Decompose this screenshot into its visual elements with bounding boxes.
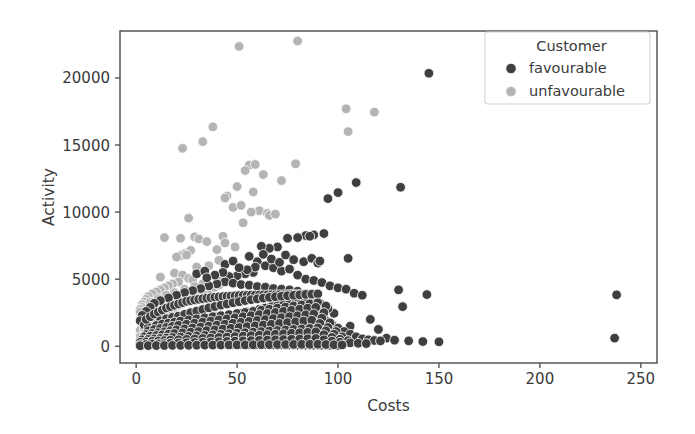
y-tick-label: 15000 — [62, 137, 110, 155]
data-point-favourable — [351, 178, 361, 188]
data-point-unfavourable — [277, 176, 287, 186]
data-point-unfavourable — [246, 207, 256, 217]
chart-canvas: 050100150200250 05000100001500020000 Cos… — [0, 0, 695, 434]
x-tick-label: 250 — [627, 370, 656, 388]
data-point-unfavourable — [370, 107, 380, 117]
data-point-favourable — [612, 290, 622, 300]
data-point-unfavourable — [248, 187, 258, 197]
x-tick-label: 100 — [324, 370, 353, 388]
data-point-favourable — [404, 336, 414, 346]
data-point-unfavourable — [343, 127, 353, 137]
data-point-unfavourable — [250, 160, 260, 170]
data-point-favourable — [390, 335, 400, 345]
data-point-unfavourable — [160, 233, 170, 243]
data-point-favourable — [424, 68, 434, 78]
data-point-unfavourable — [271, 209, 281, 219]
data-point-unfavourable — [291, 159, 301, 169]
data-point-unfavourable — [236, 201, 246, 211]
data-point-favourable — [418, 337, 428, 347]
legend-title: Customer — [536, 38, 606, 54]
y-tick-label: 0 — [100, 338, 110, 356]
data-point-unfavourable — [240, 166, 250, 176]
data-point-unfavourable — [258, 170, 268, 180]
x-tick-label: 0 — [131, 370, 141, 388]
data-point-favourable — [434, 337, 444, 347]
data-point-favourable — [293, 233, 303, 243]
data-point-favourable — [374, 325, 384, 335]
data-point-unfavourable — [176, 233, 186, 243]
x-tick-label: 150 — [425, 370, 454, 388]
data-point-unfavourable — [182, 250, 192, 260]
scatter-plot-figure: 050100150200250 05000100001500020000 Cos… — [0, 0, 695, 434]
data-point-favourable — [422, 290, 432, 300]
data-point-favourable — [357, 290, 367, 300]
y-tick-label: 5000 — [72, 271, 110, 289]
data-point-favourable — [315, 256, 325, 266]
data-point-unfavourable — [178, 144, 188, 154]
data-point-favourable — [365, 315, 375, 325]
data-point-unfavourable — [172, 252, 182, 262]
data-point-favourable — [275, 258, 285, 268]
data-point-unfavourable — [208, 122, 218, 132]
data-point-unfavourable — [156, 272, 166, 282]
legend-label: favourable — [529, 60, 607, 76]
data-point-favourable — [244, 252, 254, 262]
data-point-favourable — [376, 336, 386, 346]
data-point-favourable — [305, 231, 315, 241]
data-point-favourable — [333, 188, 343, 198]
legend-marker-icon — [506, 63, 516, 73]
data-point-unfavourable — [341, 104, 351, 114]
data-point-favourable — [289, 255, 299, 265]
legend[interactable]: Customer favourableunfavourable — [485, 32, 650, 104]
data-point-favourable — [323, 194, 333, 204]
data-point-favourable — [285, 264, 295, 274]
data-point-favourable — [234, 263, 244, 273]
data-point-favourable — [396, 182, 406, 192]
data-point-favourable — [343, 254, 353, 264]
data-point-favourable — [394, 285, 404, 295]
data-point-unfavourable — [220, 193, 230, 203]
data-point-favourable — [319, 229, 329, 239]
data-point-favourable — [337, 340, 347, 350]
data-point-unfavourable — [234, 42, 244, 52]
data-point-unfavourable — [212, 245, 222, 255]
data-point-favourable — [313, 289, 323, 299]
data-point-favourable — [610, 333, 620, 343]
data-point-favourable — [283, 233, 293, 243]
data-point-unfavourable — [220, 238, 230, 248]
data-point-unfavourable — [238, 218, 248, 228]
data-point-unfavourable — [184, 213, 194, 223]
data-point-favourable — [398, 302, 408, 312]
data-point-unfavourable — [230, 242, 240, 252]
legend-marker-icon — [506, 86, 516, 96]
x-tick-label: 200 — [526, 370, 555, 388]
x-axis-label: Costs — [367, 397, 410, 415]
data-point-unfavourable — [198, 137, 208, 147]
y-axis-label: Activity — [40, 168, 58, 226]
data-point-unfavourable — [202, 237, 212, 247]
data-point-favourable — [361, 339, 371, 349]
legend-label: unfavourable — [529, 83, 625, 99]
y-tick-label: 20000 — [62, 69, 110, 87]
x-tick-label: 50 — [228, 370, 247, 388]
data-point-favourable — [202, 273, 212, 283]
data-point-unfavourable — [293, 36, 303, 46]
y-tick-label: 10000 — [62, 204, 110, 222]
data-point-unfavourable — [232, 182, 242, 192]
